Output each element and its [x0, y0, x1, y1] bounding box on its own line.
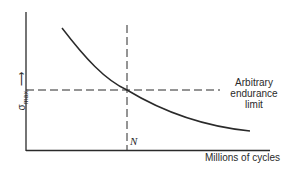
up-arrow-icon: ⟶ — [16, 72, 27, 86]
n-marker-label: N — [130, 136, 137, 147]
endurance-label-line3: limit — [222, 99, 283, 110]
y-axis-subscript: max. — [22, 89, 29, 104]
sigma-symbol: σ — [16, 104, 27, 110]
y-axis-label: σmax. ⟶ — [16, 61, 31, 111]
endurance-label-line2: endurance — [222, 88, 283, 99]
endurance-limit-label: Arbitrary endurance limit — [222, 77, 283, 110]
sn-diagram: Arbitrary endurance limit Millions of cy… — [0, 0, 283, 171]
x-axis-label: Millions of cycles — [205, 152, 280, 163]
endurance-label-line1: Arbitrary — [222, 77, 283, 88]
